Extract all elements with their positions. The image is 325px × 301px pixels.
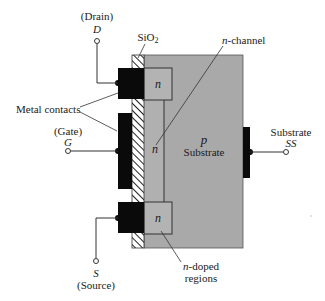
source-symbol: S [93, 267, 99, 279]
n-channel-symbol: n [152, 142, 158, 156]
drain-metal-contact [118, 68, 144, 99]
gate-terminal-icon [66, 149, 71, 154]
n-bottom-label: n [155, 211, 161, 225]
p-symbol: p [200, 132, 208, 147]
drain-paren-label: (Drain) [81, 10, 114, 23]
n-doped-regions-label: regions [185, 272, 217, 284]
n-channel-label: n-channel [222, 34, 265, 46]
drain-terminal-icon [95, 39, 100, 44]
source-terminal-icon [94, 259, 99, 264]
substrate-terminal-icon [284, 150, 289, 155]
n-doped-label: n-doped [183, 260, 220, 272]
substrate-symbol: SS [286, 137, 298, 149]
source-paren-label: (Source) [77, 279, 115, 292]
gate-symbol: G [64, 136, 72, 148]
metal-contacts-leader-1 [80, 93, 118, 107]
sio2-label: SiO2 [137, 31, 158, 45]
metal-contacts-leader-2 [80, 112, 117, 131]
source-wire [96, 218, 118, 258]
p-substrate-label: Substrate [184, 146, 225, 158]
metal-contacts-label: Metal contacts [16, 103, 80, 115]
drain-symbol: D [92, 23, 101, 35]
speck [310, 215, 312, 217]
n-top-label: n [155, 77, 161, 91]
mosfet-diagram: (Drain) D SiO2 Metal contacts (Gate) G S… [0, 0, 325, 301]
drain-wire [97, 44, 118, 83]
source-metal-contact [118, 202, 144, 233]
